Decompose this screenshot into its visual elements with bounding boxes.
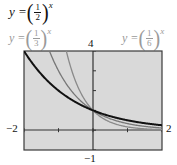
graph-window [0,0,177,165]
